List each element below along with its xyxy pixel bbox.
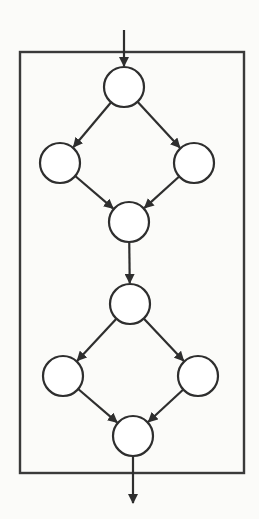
edge-arrow-n2-to-n4	[75, 176, 113, 208]
edge-arrow-n5-to-n6	[77, 319, 116, 361]
node-circle	[178, 356, 218, 396]
arrow-line	[74, 102, 112, 147]
arrow-line	[148, 390, 183, 422]
graph-node-n8	[113, 416, 153, 456]
edge-arrow-n5-to-n7	[144, 319, 184, 361]
node-circle	[113, 416, 153, 456]
graph-node-n4	[109, 202, 149, 242]
node-circle	[43, 356, 83, 396]
arrow-line	[138, 102, 180, 148]
graph-node-n5	[110, 284, 150, 324]
arrow-line	[77, 319, 116, 361]
edge-arrow-n1-to-n2	[74, 102, 112, 147]
control-flow-diagram	[0, 0, 259, 519]
edge-arrow-n6-to-n8	[78, 389, 117, 422]
graph-node-n7	[178, 356, 218, 396]
arrow-line	[78, 389, 117, 422]
node-circle	[174, 143, 214, 183]
edge-arrow-n7-to-n8	[148, 390, 183, 422]
node-circle	[110, 284, 150, 324]
arrow-line	[129, 242, 130, 283]
graph-node-n3	[174, 143, 214, 183]
arrow-line	[75, 176, 113, 208]
arrow-line	[145, 176, 180, 207]
node-circle	[40, 143, 80, 183]
arrow-line	[144, 319, 184, 361]
edge-arrow-n4-to-n5	[129, 242, 130, 283]
node-circle	[104, 67, 144, 107]
graph-node-n1	[104, 67, 144, 107]
graph-node-n2	[40, 143, 80, 183]
edge-arrow-n3-to-n4	[145, 176, 180, 207]
graph-node-n6	[43, 356, 83, 396]
module-boundary-frame	[20, 52, 244, 473]
edge-arrow-n1-to-n3	[138, 102, 180, 148]
node-circle	[109, 202, 149, 242]
